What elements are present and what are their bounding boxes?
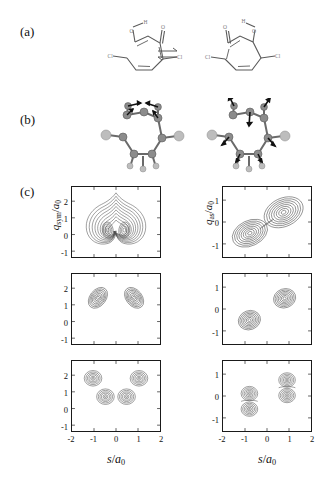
xtick-right-2: 2 <box>302 434 322 444</box>
atom-label-cl2: Cl <box>275 53 281 59</box>
ytick-right-mid-0: 0 <box>199 305 219 315</box>
ytick-left-bot-1: 1 <box>48 388 68 398</box>
xtick-right-1: 1 <box>280 434 300 444</box>
ytick-left-top-m1: -1 <box>48 248 68 258</box>
contour-lines-two-lobes <box>84 284 147 312</box>
xtick-left-1: 1 <box>129 434 149 444</box>
atom-label-cl: Cl <box>108 53 114 59</box>
xtick-right-m1: -1 <box>235 434 255 444</box>
ytick-left-mid-1: 1 <box>48 301 68 311</box>
ytick-left-mid-m1: -1 <box>48 335 68 345</box>
ytick-left-mid-2: 2 <box>48 284 68 294</box>
ytick-left-top-2: 2 <box>48 197 68 207</box>
ytick-right-bot-m1: -1 <box>199 415 219 425</box>
contour-plot-right-bottom <box>222 360 312 432</box>
ytick-right-bot-0: 0 <box>199 392 219 402</box>
ytick-right-mid-1: 1 <box>199 283 219 293</box>
contour-lines-dumbbell <box>228 191 309 253</box>
panel-a-label: (a) <box>20 24 34 40</box>
xtick-left-0: 0 <box>106 434 126 444</box>
xtick-left-m2: -2 <box>61 434 81 444</box>
mode-right-ballstick <box>198 98 298 174</box>
atom-label-o: O <box>223 24 227 30</box>
ytick-left-bot-2: 2 <box>48 371 68 381</box>
contour-lines-heart <box>86 193 146 244</box>
xtick-right-m2: -2 <box>212 434 232 444</box>
ytick-left-top-0: 0 <box>48 231 68 241</box>
mode-left-svg <box>92 98 192 174</box>
molecule-right-svg: O O H Cl Cl <box>196 18 286 90</box>
mode-left-ballstick <box>92 98 192 174</box>
xtick-left-2: 2 <box>151 434 171 444</box>
contour-lines-two-circles <box>236 286 299 333</box>
contour-plot-right-top <box>222 186 312 258</box>
xtick-right-0: 0 <box>257 434 277 444</box>
atom-label-cl: Cl <box>205 54 211 60</box>
y-axis-label-right: qas/a0 <box>202 185 216 241</box>
panel-b-label: (b) <box>20 112 35 128</box>
equilibrium-arrow-icon <box>155 45 181 63</box>
contour-plot-left-mid <box>71 273 161 345</box>
atom-label-h: H <box>144 19 148 25</box>
contour-lines-stacked-pairs <box>241 373 295 417</box>
molecule-right-enol: O O H Cl Cl <box>196 18 286 90</box>
ytick-right-top-1: 1 <box>199 196 219 206</box>
x-axis-label-right: s/a0 <box>222 452 312 467</box>
contour-plot-left-bottom <box>71 360 161 432</box>
ytick-left-bot-0: 0 <box>48 405 68 415</box>
x-axis-label-left: s/a0 <box>71 452 161 467</box>
ytick-right-mid-m1: -1 <box>199 328 219 338</box>
panel-c-label: (c) <box>20 184 34 200</box>
ytick-left-top-1: 1 <box>48 214 68 224</box>
figure-root: (a) O O <box>0 0 329 480</box>
ytick-right-top-0: 0 <box>199 218 219 228</box>
ytick-right-top-m1: -1 <box>199 241 219 251</box>
ytick-right-bot-1: 1 <box>199 370 219 380</box>
atom-label-o: O <box>130 28 134 34</box>
atom-label-o2: O <box>161 24 165 30</box>
contour-plot-left-top <box>71 186 161 258</box>
mode-right-svg <box>198 98 298 174</box>
contour-lines-four-lobes <box>84 371 148 405</box>
ytick-left-mid-0: 0 <box>48 318 68 328</box>
contour-plot-right-mid <box>222 273 312 345</box>
atom-label-o2: O <box>252 28 256 34</box>
atom-label-h: H <box>242 18 246 24</box>
xtick-left-m1: -1 <box>84 434 104 444</box>
ytick-left-bot-m1: -1 <box>48 422 68 432</box>
